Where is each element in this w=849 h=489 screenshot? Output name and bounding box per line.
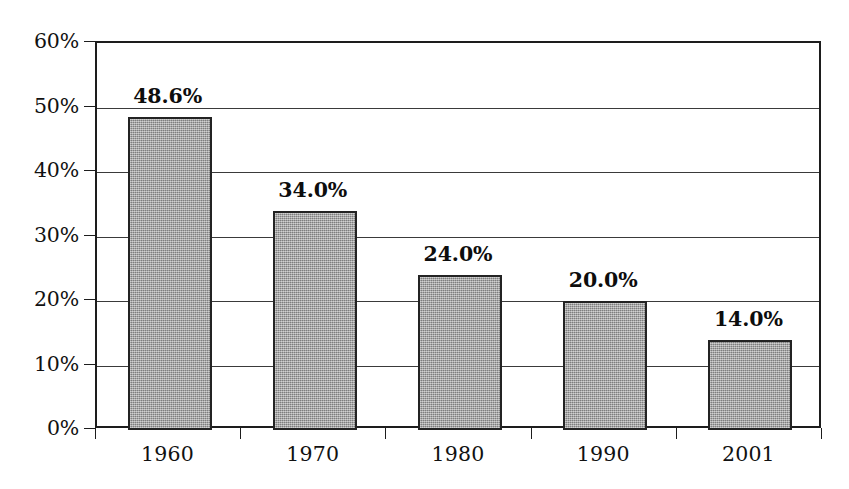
- x-axis-tick-mark: [95, 428, 96, 439]
- y-axis-tick-mark: [84, 235, 95, 236]
- y-axis-tick-mark: [84, 41, 95, 42]
- y-axis-tick-label: 60%: [7, 31, 79, 52]
- y-axis-tick-mark: [84, 299, 95, 300]
- gridline: [97, 108, 819, 109]
- bar-value-label-2001: 14.0%: [678, 309, 818, 330]
- bar-value-label-1970: 34.0%: [243, 180, 383, 201]
- bar-value-label-1990: 20.0%: [533, 270, 673, 291]
- y-axis-tick-label: 10%: [7, 354, 79, 375]
- x-axis-tick-mark: [821, 428, 822, 439]
- bar-1970: [273, 211, 357, 430]
- x-axis-tick-mark: [385, 428, 386, 439]
- x-axis-tick-mark: [531, 428, 532, 439]
- y-axis-tick-label: 50%: [7, 96, 79, 117]
- x-axis-category-label-2001: 2001: [678, 444, 818, 465]
- bar-1990: [563, 301, 647, 430]
- x-axis-category-label-1990: 1990: [533, 444, 673, 465]
- y-axis-tick-label: 0%: [7, 418, 79, 439]
- y-axis-tick-mark: [84, 364, 95, 365]
- bar-1980: [418, 275, 502, 430]
- x-axis-category-label-1960: 1960: [98, 444, 238, 465]
- x-axis-tick-mark: [240, 428, 241, 439]
- x-axis-category-label-1980: 1980: [388, 444, 528, 465]
- bar-chart: 0%10%20%30%40%50%60% 1960197019801990200…: [0, 0, 849, 489]
- x-axis-category-label-1970: 1970: [243, 444, 383, 465]
- y-axis-tick-mark: [84, 428, 95, 429]
- y-axis-tick-label: 40%: [7, 160, 79, 181]
- x-axis-tick-mark: [676, 428, 677, 439]
- y-axis-tick-label: 30%: [7, 225, 79, 246]
- bar-value-label-1980: 24.0%: [388, 244, 528, 265]
- bar-1960: [128, 117, 212, 430]
- y-axis-tick-mark: [84, 106, 95, 107]
- bar-value-label-1960: 48.6%: [98, 86, 238, 107]
- y-axis-tick-label: 20%: [7, 289, 79, 310]
- bar-2001: [708, 340, 792, 430]
- y-axis-tick-mark: [84, 170, 95, 171]
